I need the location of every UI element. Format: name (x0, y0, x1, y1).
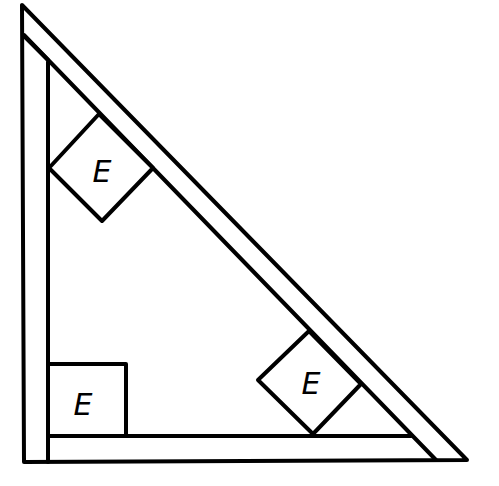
upper-diamond-block: E (49, 114, 153, 221)
upper-block-label: E (93, 154, 112, 189)
corner-square-block: E (48, 364, 126, 436)
corner-block-label: E (74, 387, 93, 422)
triangle-frame-diagram: E E E (0, 0, 499, 486)
lower-diamond-block: E (258, 331, 361, 434)
lower-block-label: E (302, 366, 321, 401)
